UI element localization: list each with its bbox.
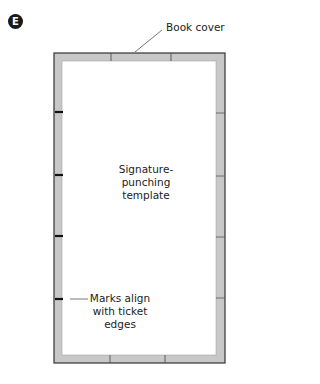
template-label-line1: Signature-punching bbox=[96, 163, 196, 189]
template-label: Signature-punching template bbox=[96, 163, 196, 202]
marks-label-line2: with ticket bbox=[88, 305, 152, 318]
marks-label: Marks align with ticket edges bbox=[88, 292, 152, 331]
marks-label-line3: edges bbox=[88, 318, 152, 331]
book-cover-leader bbox=[135, 30, 162, 52]
marks-label-line1: Marks align bbox=[88, 292, 152, 305]
template-label-line2: template bbox=[96, 189, 196, 202]
book-cover-label: Book cover bbox=[166, 21, 225, 34]
